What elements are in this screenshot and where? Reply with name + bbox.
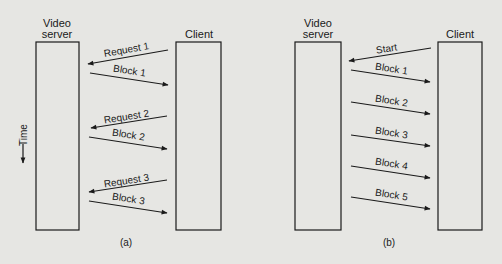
panel-b: Video server Client Start Block 1 Block … (295, 17, 482, 248)
time-axis-label: Time (18, 124, 29, 146)
msg-label-block-4: Block 4 (374, 156, 409, 172)
panel-caption-b: (b) (383, 237, 395, 248)
client-timeline-box (176, 42, 221, 230)
msg-label-block-5: Block 5 (374, 187, 409, 203)
msg-label-request-3: Request 3 (103, 171, 150, 189)
video-server-timeline-box (295, 42, 341, 230)
msg-label-block-3: Block 3 (111, 191, 146, 207)
server-label-line2: server (42, 28, 73, 40)
panel-a: Video server Client Time Request 1 Block… (18, 17, 221, 248)
client-server-timing-diagram: Video server Client Time Request 1 Block… (0, 0, 502, 264)
video-server-timeline-box (36, 42, 79, 230)
server-label-line2: server (303, 28, 334, 40)
msg-label-request-1: Request 1 (103, 40, 150, 59)
msg-label-block-2: Block 2 (111, 127, 146, 143)
panel-caption-a: (a) (120, 237, 132, 248)
msg-label-block-1: Block 1 (112, 63, 147, 79)
client-timeline-box (438, 42, 482, 230)
client-label: Client (446, 28, 474, 40)
client-label: Client (185, 28, 213, 40)
msg-label-block-3: Block 3 (374, 125, 409, 141)
